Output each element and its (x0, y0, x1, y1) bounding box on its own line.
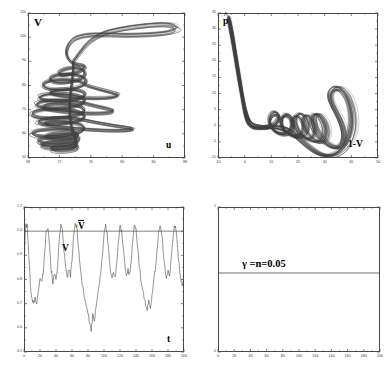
tick-label-x: 40 (349, 161, 353, 165)
tick-label-y: 5 (203, 108, 216, 112)
tick-label-x: 120 (117, 355, 123, 359)
tick-label-x: 120 (312, 355, 318, 359)
tick-label-y: 0 (203, 350, 216, 354)
tick-label-x: 0 (217, 355, 219, 359)
tick-label-x: 80 (281, 355, 285, 359)
tick-label-x: 160 (149, 355, 155, 359)
panel3-v-label: V (62, 243, 69, 253)
tick-label-x: 72 (57, 161, 61, 165)
tick-label-x: 40 (54, 355, 58, 359)
panel2-ylabel: ^p (223, 16, 228, 26)
tick-label-x: -10 (215, 161, 220, 165)
tick-label-x: 80 (86, 355, 90, 359)
tick-label-x: 200 (181, 355, 187, 359)
tick-label-x: 68 (26, 161, 30, 165)
panel-bottom-left: V V t 0204060801001201401601802000.50.60… (0, 192, 196, 385)
panel1-xlabel: u (166, 140, 171, 150)
tick-label-x: 140 (328, 355, 334, 359)
tick-label-y: 15 (203, 76, 216, 80)
tick-label-y: 50 (13, 156, 26, 160)
tick-label-y: 0.6 (9, 326, 22, 330)
tick-label-y: 60 (13, 132, 26, 136)
tick-label-x: 60 (70, 355, 74, 359)
tick-label-x: 200 (377, 355, 383, 359)
tick-label-x: 50 (376, 161, 380, 165)
tick-label-y: 25 (203, 43, 216, 47)
tick-label-x: 0 (244, 161, 246, 165)
panel3-vbar-label-text: V (78, 221, 85, 231)
tick-label-y: 70 (13, 108, 26, 112)
tick-label-y: 110 (13, 11, 26, 15)
tick-label-x: 76 (89, 161, 93, 165)
tick-label-y: 0 (203, 124, 216, 128)
tick-label-x: 84 (152, 161, 156, 165)
tick-label-y: 0.5 (9, 350, 22, 354)
tick-label-y: 10 (203, 92, 216, 96)
panel-top-right: ^p 1-V -1001020304050-10-505101520253035 (196, 0, 391, 192)
tick-label-y: 80 (13, 84, 26, 88)
tick-label-y: 1.0 (9, 229, 22, 233)
tick-label-y: 0.9 (9, 254, 22, 258)
tick-label-x: 20 (296, 161, 300, 165)
tick-label-y: 90 (13, 60, 26, 64)
tick-label-y: -5 (203, 140, 216, 144)
panel2-xlabel: 1-V (348, 139, 363, 149)
panel-bottom-right: γ =n=0.05 02040608010012014016018020001 (196, 192, 391, 385)
tick-label-x: 180 (165, 355, 171, 359)
tick-label-x: 80 (120, 161, 124, 165)
tick-label-x: 20 (38, 355, 42, 359)
tick-label-y: -10 (203, 156, 216, 160)
tick-label-y: 1 (203, 205, 216, 209)
tick-label-x: 140 (133, 355, 139, 359)
tick-label-x: 40 (248, 355, 252, 359)
tick-label-x: 160 (345, 355, 351, 359)
tick-label-y: 1.1 (9, 205, 22, 209)
panel4-gamma-annotation: γ =n=0.05 (242, 258, 286, 269)
tick-label-x: 10 (269, 161, 273, 165)
tick-label-y: 35 (203, 11, 216, 15)
panel2-plot-area (196, 0, 391, 192)
panel3-vbar-label: V (78, 221, 85, 231)
tick-label-x: 60 (265, 355, 269, 359)
tick-label-y: 0.8 (9, 278, 22, 282)
tick-label-x: 180 (361, 355, 367, 359)
tick-label-x: 20 (232, 355, 236, 359)
tick-label-y: 0.7 (9, 302, 22, 306)
panel3-xlabel: t (167, 334, 170, 344)
tick-label-x: 0 (23, 355, 25, 359)
tick-label-y: 100 (13, 35, 26, 39)
tick-label-x: 30 (323, 161, 327, 165)
tick-label-x: 100 (101, 355, 107, 359)
panel1-ylabel: V (34, 16, 42, 28)
panel-top-left: V u 6872768084885060708090100110 (0, 0, 196, 192)
tick-label-y: 30 (203, 27, 216, 31)
tick-label-y: 20 (203, 60, 216, 64)
tick-label-x: 100 (296, 355, 302, 359)
four-panel-figure: V u 6872768084885060708090100110 ^p 1-V … (0, 0, 391, 385)
tick-label-x: 88 (183, 161, 187, 165)
